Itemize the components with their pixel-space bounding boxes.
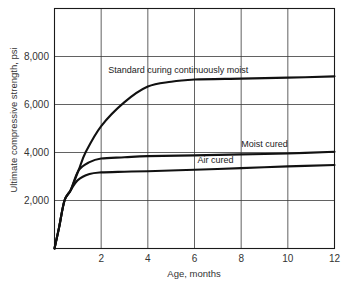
strength-vs-age-chart: 24681012 2,0004,0006,0008,000 Standard c…	[0, 0, 344, 283]
y-axis-ticks: 2,0004,0006,0008,000	[24, 51, 49, 206]
y-tick-label: 4,000	[24, 147, 49, 158]
x-tick-label: 2	[98, 253, 104, 264]
y-tick-label: 2,000	[24, 195, 49, 206]
y-axis-label: Ultimate compressive strength, psi	[8, 47, 19, 192]
x-axis-label: Age, months	[167, 268, 221, 279]
label-standard-curing: Standard curing continuously moist	[108, 65, 249, 75]
x-tick-label: 10	[282, 253, 294, 264]
x-tick-label: 4	[145, 253, 151, 264]
x-axis-ticks: 24681012	[98, 253, 340, 264]
x-tick-label: 6	[192, 253, 198, 264]
x-tick-label: 8	[238, 253, 244, 264]
x-tick-label: 12	[329, 253, 341, 264]
label-air-cured: Air cured	[197, 155, 233, 165]
grid-lines	[55, 9, 335, 249]
y-tick-label: 6,000	[24, 99, 49, 110]
y-tick-label: 8,000	[24, 51, 49, 62]
label-moist-cured: Moist cured	[241, 139, 288, 149]
